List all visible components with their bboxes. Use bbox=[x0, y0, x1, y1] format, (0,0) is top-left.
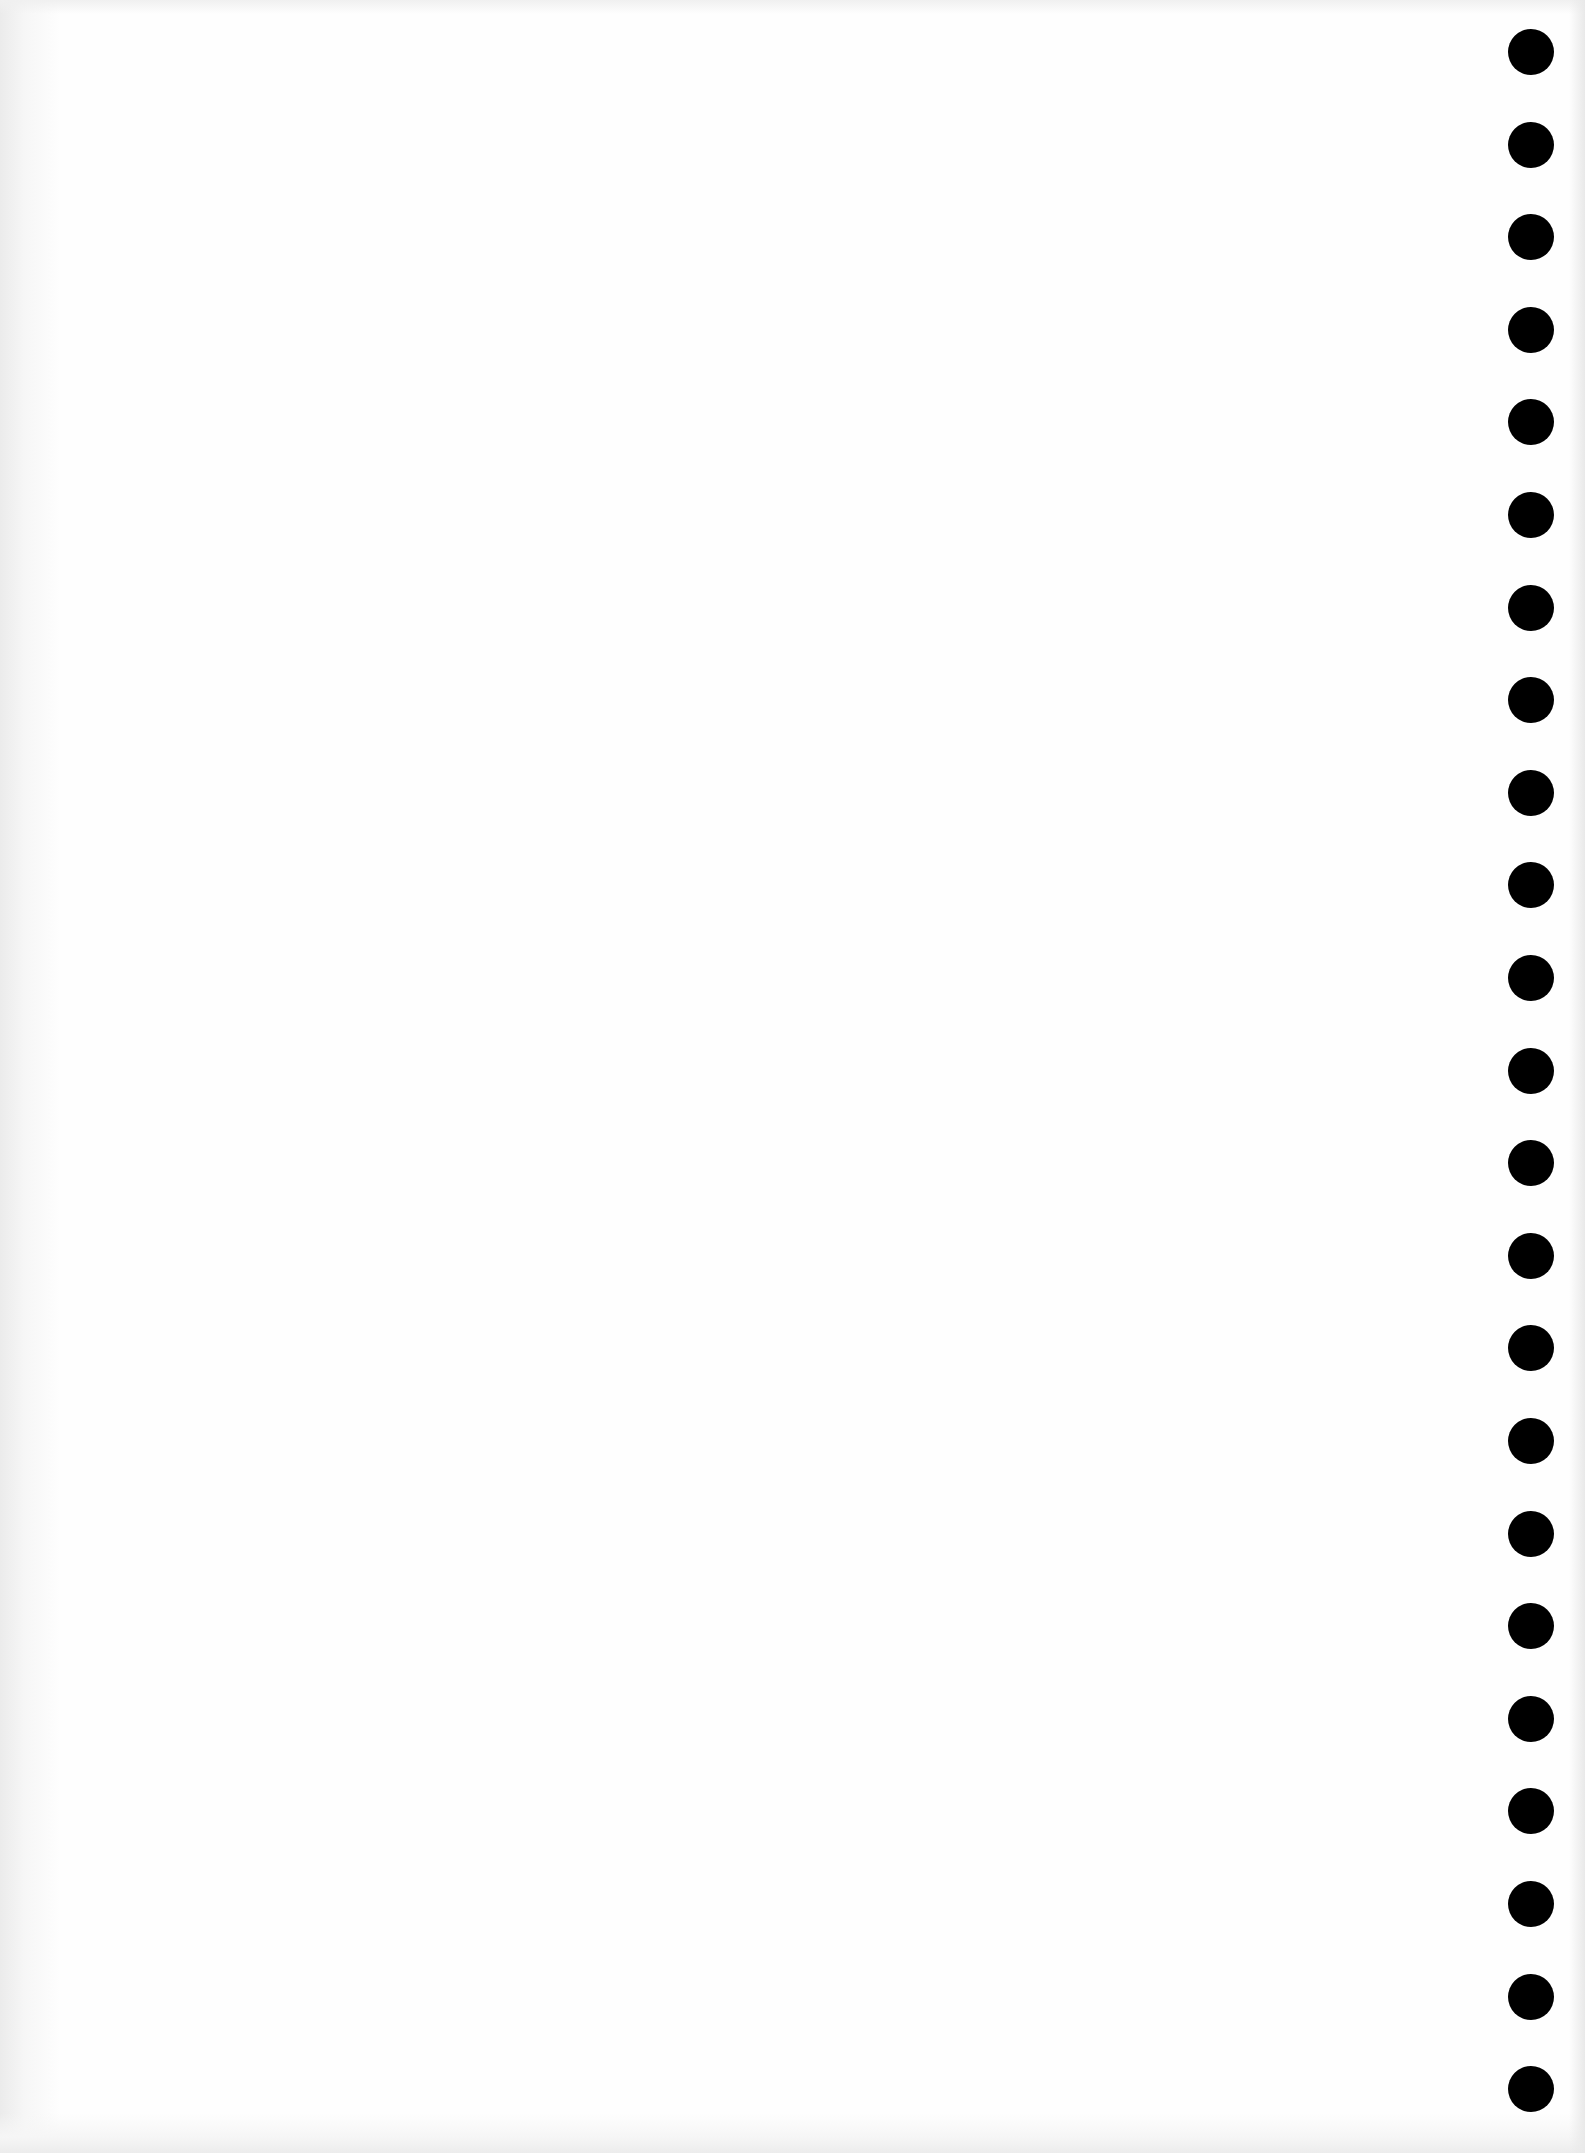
binding-hole bbox=[1508, 122, 1554, 168]
binding-hole bbox=[1508, 1325, 1554, 1371]
binding-hole bbox=[1508, 1788, 1554, 1834]
binding-hole bbox=[1508, 307, 1554, 353]
scan-shadow-left bbox=[0, 0, 60, 2153]
binding-hole bbox=[1508, 492, 1554, 538]
binding-hole bbox=[1508, 29, 1554, 75]
binding-hole bbox=[1508, 1696, 1554, 1742]
scan-shadow-top bbox=[0, 0, 1585, 14]
binding-hole bbox=[1508, 214, 1554, 260]
binding-hole bbox=[1508, 1048, 1554, 1094]
binding-hole bbox=[1508, 1140, 1554, 1186]
scan-shadow-right bbox=[1569, 0, 1585, 2153]
blank-page bbox=[0, 0, 1585, 2153]
binding-hole bbox=[1508, 399, 1554, 445]
binding-hole bbox=[1508, 770, 1554, 816]
binding-hole bbox=[1508, 862, 1554, 908]
binding-holes bbox=[1508, 29, 1554, 2119]
binding-hole bbox=[1508, 677, 1554, 723]
binding-hole bbox=[1508, 1603, 1554, 1649]
binding-hole bbox=[1508, 2066, 1554, 2112]
binding-hole bbox=[1508, 1974, 1554, 2020]
binding-hole bbox=[1508, 585, 1554, 631]
scan-shadow-bottom bbox=[0, 2113, 1585, 2153]
binding-hole bbox=[1508, 1881, 1554, 1927]
binding-hole bbox=[1508, 1511, 1554, 1557]
binding-hole bbox=[1508, 1418, 1554, 1464]
binding-hole bbox=[1508, 955, 1554, 1001]
binding-hole bbox=[1508, 1233, 1554, 1279]
